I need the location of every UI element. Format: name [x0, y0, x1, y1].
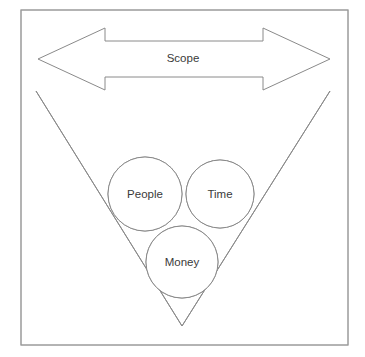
circle-group-people: People [108, 157, 182, 231]
circle-label-money: Money [165, 256, 200, 268]
scope-label: Scope [167, 52, 200, 64]
circle-label-people: People [127, 188, 163, 200]
circle-label-time: Time [207, 188, 232, 200]
diagram-canvas: Scope People Time Money [0, 0, 365, 357]
circle-group-time: Time [186, 160, 254, 228]
circle-group-money: Money [146, 226, 218, 298]
scope-triangle-diagram: Scope People Time Money [0, 0, 365, 357]
